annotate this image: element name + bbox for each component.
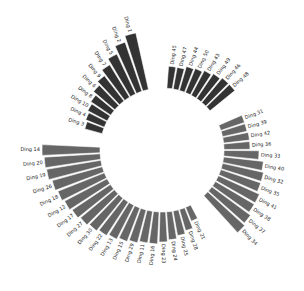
bar-label: Ding 29 bbox=[123, 242, 136, 263]
bar-label: Ding 39 bbox=[247, 118, 268, 130]
bar bbox=[42, 145, 100, 156]
bar-label: Ding 26 bbox=[32, 183, 53, 196]
bar-label: Ding 25 bbox=[179, 236, 190, 257]
bar-label: Ding 45 bbox=[169, 45, 178, 65]
bar-label: Ding 15 bbox=[111, 240, 125, 261]
bar-label: Ding 19 bbox=[26, 171, 47, 182]
bar-label: Ding 11 bbox=[136, 243, 147, 264]
bar bbox=[159, 212, 167, 242]
bar-label: Ding 42 bbox=[250, 129, 270, 139]
bar-label: Ding 23 bbox=[160, 244, 167, 264]
bar-label: Ding 2 bbox=[110, 26, 123, 44]
bar-label: Ding 36 bbox=[252, 141, 272, 149]
bar-label: Ding 40 bbox=[264, 163, 284, 173]
bar-label: Ding 14 bbox=[20, 146, 40, 153]
bar-label: Ding 3 bbox=[67, 116, 85, 128]
bar-label: Ding 24 bbox=[170, 241, 179, 261]
bars-layer bbox=[42, 33, 264, 244]
bar-label: Ding 33 bbox=[261, 152, 281, 160]
bar-label: Ding 1 bbox=[122, 16, 133, 34]
circular-bar-chart: Ding 3Ding 4Ding 10Ding 8Ding 6Ding 9Din… bbox=[0, 0, 304, 291]
bar-label: Ding 18 bbox=[39, 193, 60, 207]
bar-label: Ding 32 bbox=[264, 174, 285, 186]
bar-label: Ding 34 bbox=[240, 228, 259, 247]
bar-label: Ding 20 bbox=[23, 159, 43, 168]
bar-label: Ding 16 bbox=[148, 245, 157, 265]
bar-label: Ding 35 bbox=[260, 185, 281, 199]
bar-label: Ding 5 bbox=[101, 38, 115, 56]
